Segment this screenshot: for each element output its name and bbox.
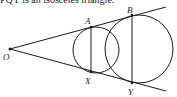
- label-y: Y: [128, 87, 134, 97]
- small-circle: [73, 27, 119, 73]
- point-o-dot: [9, 48, 12, 51]
- large-circle: [105, 15, 173, 83]
- label-x: X: [84, 76, 91, 86]
- point-y-dot: [131, 82, 134, 85]
- point-x-dot: [90, 71, 93, 74]
- point-a-dot: [90, 26, 93, 29]
- label-a: A: [84, 16, 91, 26]
- label-o: O: [3, 52, 10, 62]
- geometry-diagram: O A X B Y: [0, 0, 177, 97]
- label-b: B: [127, 5, 133, 15]
